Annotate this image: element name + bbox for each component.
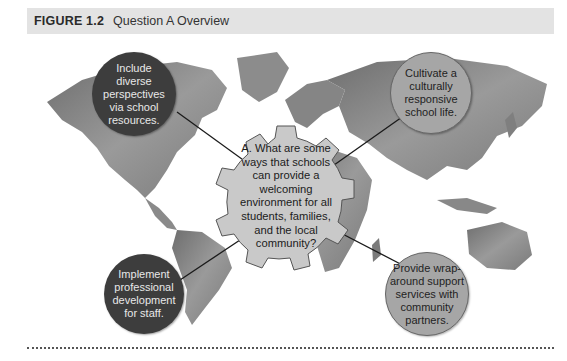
node-top-right: Cultivate a culturally responsive school…	[390, 52, 472, 134]
figure-label: FIGURE 1.2	[34, 14, 104, 28]
node-top-left-text: Include diverse perspectives via school …	[99, 62, 169, 127]
figure-header: FIGURE 1.2 Question A Overview	[27, 8, 554, 34]
node-top-left: Include diverse perspectives via school …	[92, 52, 176, 136]
node-bottom-left: Implement professional development for s…	[104, 254, 184, 334]
node-top-right-text: Cultivate a culturally responsive school…	[399, 67, 463, 119]
node-bottom-right: Provide wrap-around support services wit…	[385, 252, 469, 336]
central-question: A. What are some ways that schools can p…	[233, 142, 339, 251]
node-bottom-right-text: Provide wrap-around support services wit…	[388, 262, 466, 327]
node-bottom-left-text: Implement professional development for s…	[111, 268, 177, 320]
bottom-dotted-rule	[27, 347, 554, 349]
figure-title: Question A Overview	[113, 14, 229, 28]
